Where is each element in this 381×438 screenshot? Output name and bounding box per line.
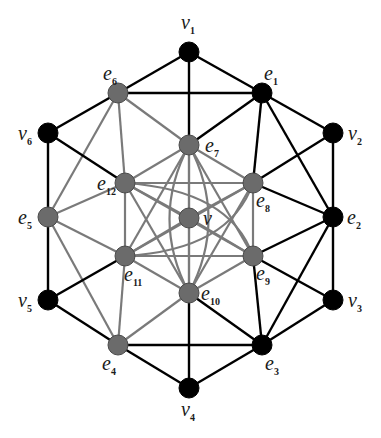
node-e4 [108, 335, 128, 355]
node-e10 [179, 283, 199, 303]
node-v5 [38, 290, 58, 310]
node-v4 [179, 378, 199, 398]
node-v1 [179, 42, 199, 62]
node-e5 [38, 207, 58, 227]
label-v: v [203, 207, 212, 229]
graph-diagram: v1v2v3v4v5v6e1e2e3e4e5e6e7e8e9e10e11e12v [0, 0, 381, 438]
node-e2 [323, 207, 343, 227]
node-e1 [252, 83, 272, 103]
node-v2 [323, 123, 343, 143]
node-v6 [38, 123, 58, 143]
node-v3 [323, 290, 343, 310]
node-e12 [115, 173, 135, 193]
node-v [179, 208, 199, 228]
node-e7 [179, 135, 199, 155]
